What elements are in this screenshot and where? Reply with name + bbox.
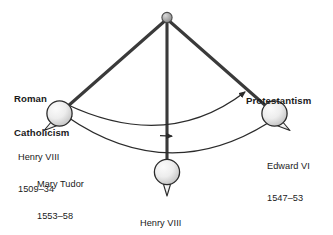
reign-label-mary-tudor: Mary Tudor 1553–58 [37,157,84,235]
reign-label-edward-vi: Edward VI 1547–53 [267,139,310,226]
pendulum-diagram-canvas: Roman Catholicism Protestantism Henry VI… [0,0,333,235]
pole-label-protestantism: Protestantism [246,72,311,129]
reign-label-mary-tudor-ruler: Mary Tudor [37,179,84,190]
pole-label-roman-catholicism-line1: Roman [14,93,69,104]
pole-label-protestantism-line1: Protestantism [246,95,311,106]
pendulum-bob-center [154,159,179,196]
reign-label-mary-tudor-years: 1553–58 [37,211,84,222]
reign-label-henry-viii-late-ruler: Henry VIII [140,218,181,229]
reign-label-edward-vi-ruler: Edward VI [267,161,310,172]
reign-label-henry-viii-late: Henry VIII 1534–47 [140,196,181,235]
swing-arc-upper [66,92,245,136]
pendulum-rod-left [60,19,168,114]
pendulum-pivot [162,12,172,22]
reign-label-edward-vi-years: 1547–53 [267,193,310,204]
